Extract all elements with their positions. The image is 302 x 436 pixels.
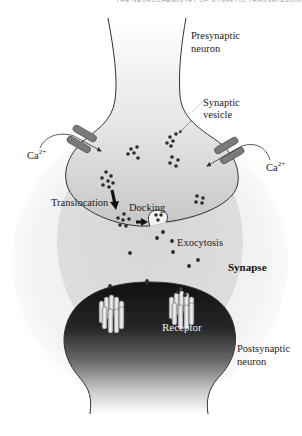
running-head: THE NEUROCHEMISTRY OF SYNAPTIC TRANSMISS… bbox=[116, 0, 301, 3]
label-presynaptic-line1: Presynaptic bbox=[191, 30, 240, 41]
label-presynaptic-line2: neuron bbox=[191, 43, 221, 54]
synapse-diagram: THE NEUROCHEMISTRY OF SYNAPTIC TRANSMISS… bbox=[0, 0, 302, 436]
label-calcium-right: Ca2+ bbox=[266, 160, 285, 173]
label-synapse: Synapse bbox=[228, 261, 267, 273]
label-translocation: Translocation bbox=[51, 197, 109, 208]
label-exocytosis: Exocytosis bbox=[177, 237, 223, 248]
postsynaptic-neuron bbox=[64, 282, 236, 414]
label-postsynaptic-line1: Postsynaptic bbox=[237, 343, 290, 354]
label-synaptic-vesicle-line1: Synaptic bbox=[203, 97, 240, 108]
label-postsynaptic-line2: neuron bbox=[237, 356, 267, 367]
label-synaptic-vesicle-line2: vesicle bbox=[203, 109, 232, 120]
label-calcium-left: Ca2+ bbox=[27, 148, 46, 161]
label-docking: Docking bbox=[129, 202, 166, 213]
label-receptor: Receptor bbox=[162, 321, 202, 333]
